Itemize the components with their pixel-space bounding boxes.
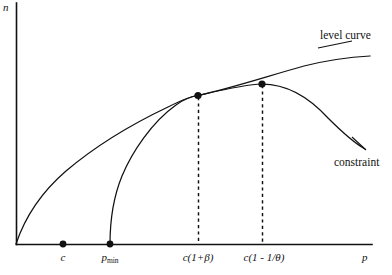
level-curve-leader xyxy=(318,41,352,48)
tick-label-c-1-minus-1-theta: c(1 - 1/θ) xyxy=(244,252,285,263)
tick-label-c-text: c xyxy=(61,251,66,263)
axis-dot-c xyxy=(60,241,67,248)
constraint-curve-path xyxy=(110,84,365,244)
figure-canvas: n p c pmin c(1+β) c(1 - 1/θ) level curve… xyxy=(0,0,392,275)
peak-point-marker xyxy=(258,80,265,87)
level-curve-path xyxy=(16,56,370,244)
constraint-label: constraint xyxy=(334,157,379,169)
tick-label-c: c xyxy=(61,252,66,263)
tick-label-p-min-text: p xyxy=(101,251,107,263)
level-curve-label: level curve xyxy=(320,30,371,42)
axis-dot-p-min xyxy=(107,241,114,248)
tick-label-p-min: pmin xyxy=(101,252,118,263)
tick-label-p-min-subscript: min xyxy=(107,256,119,265)
x-axis-label: p xyxy=(362,252,368,263)
y-axis-label: n xyxy=(3,2,9,13)
constraint-leader xyxy=(352,137,366,150)
tick-label-c-1-plus-beta: c(1+β) xyxy=(183,252,214,263)
tangency-point-marker xyxy=(194,92,201,99)
